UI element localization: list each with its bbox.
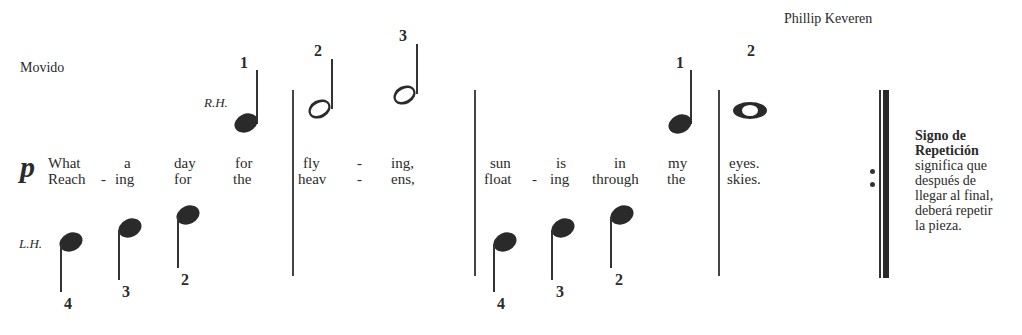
left-hand-label: L.H. (19, 236, 42, 252)
lyric: day (174, 155, 196, 171)
lyric: the (667, 171, 685, 187)
repeat-thick-bar (883, 90, 889, 278)
bar-line (718, 90, 720, 276)
lyric: through (592, 171, 639, 187)
lyric: ens, (391, 171, 415, 187)
repeat-thin-bar (879, 90, 881, 278)
lyric: - (532, 171, 537, 187)
half-note-head (390, 82, 419, 109)
lyric: - (357, 171, 362, 187)
lh-fingering: 3 (122, 284, 130, 300)
lyric: ing, (391, 155, 414, 171)
lyric: my (668, 155, 687, 171)
repeat-text-line: deberá repetir (915, 203, 993, 218)
lyric: a (124, 155, 131, 171)
whole-note-head (733, 102, 767, 119)
right-hand-label: R.H. (204, 95, 228, 111)
composer-name: Phillip Keveren (784, 11, 872, 27)
repeat-dot (870, 182, 875, 187)
rh-fingering: 1 (240, 55, 248, 71)
quarter-note-head (548, 215, 577, 241)
bar-line (292, 90, 294, 276)
note-stem (416, 44, 418, 94)
lyric: is (556, 155, 566, 171)
repeat-text-line: llegar al final, (915, 188, 993, 203)
quarter-note-head (490, 229, 519, 255)
repeat-dot (870, 169, 875, 174)
lyric: skies. (727, 171, 761, 187)
tempo-marking: Movido (20, 60, 64, 76)
lyric: fly (303, 155, 320, 171)
lh-fingering: 4 (64, 296, 72, 312)
lyric: - (357, 155, 362, 171)
lyric: Reach (48, 171, 85, 187)
lyric: eyes. (729, 155, 759, 171)
lyric: ing (115, 171, 134, 187)
rh-fingering: 2 (747, 43, 755, 59)
lyric: for (174, 171, 192, 187)
quarter-note-head (607, 202, 636, 228)
repeat-text-line: la pieza. (915, 218, 993, 233)
rh-fingering: 1 (676, 55, 684, 71)
note-stem (118, 230, 120, 280)
lyric: the (233, 171, 251, 187)
lyric: What (48, 155, 80, 171)
lyric: for (235, 155, 253, 171)
quarter-note-head (115, 215, 144, 241)
note-stem (610, 217, 612, 268)
lh-fingering: 3 (556, 284, 564, 300)
note-stem (690, 70, 692, 124)
note-stem (331, 59, 333, 109)
lh-fingering: 4 (497, 296, 505, 312)
bar-line (474, 90, 476, 276)
repeat-text-line: significa que (915, 158, 993, 173)
half-note-head (305, 96, 334, 123)
lyric: float (484, 171, 512, 187)
note-stem (60, 244, 62, 292)
dynamic-piano-marking: p (20, 152, 35, 182)
lh-fingering: 2 (181, 272, 189, 288)
note-stem (551, 230, 553, 280)
lh-fingering: 2 (615, 272, 623, 288)
repeat-title: Signo de (915, 128, 966, 143)
repeat-explanation: Signo de Repetición significa que despué… (915, 128, 993, 233)
lyric: sun (490, 155, 511, 171)
lyric: heav (298, 171, 326, 187)
repeat-text-line: después de (915, 173, 993, 188)
note-stem (493, 244, 495, 292)
lyric: in (614, 155, 626, 171)
rh-fingering: 2 (314, 43, 322, 59)
repeat-title: Repetición (915, 143, 979, 158)
lyric: ing (550, 171, 569, 187)
note-stem (177, 217, 179, 268)
rh-fingering: 3 (399, 28, 407, 44)
lyric: - (101, 171, 106, 187)
